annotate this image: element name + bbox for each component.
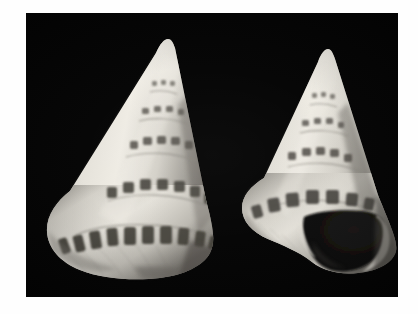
right-shell-body <box>226 37 398 280</box>
left-shell-body <box>38 19 228 280</box>
photo-black-field <box>26 13 398 297</box>
left-specimen <box>38 35 228 280</box>
right-specimen <box>226 45 398 280</box>
screenshot-root: two marine gastropod shells <box>0 0 418 314</box>
